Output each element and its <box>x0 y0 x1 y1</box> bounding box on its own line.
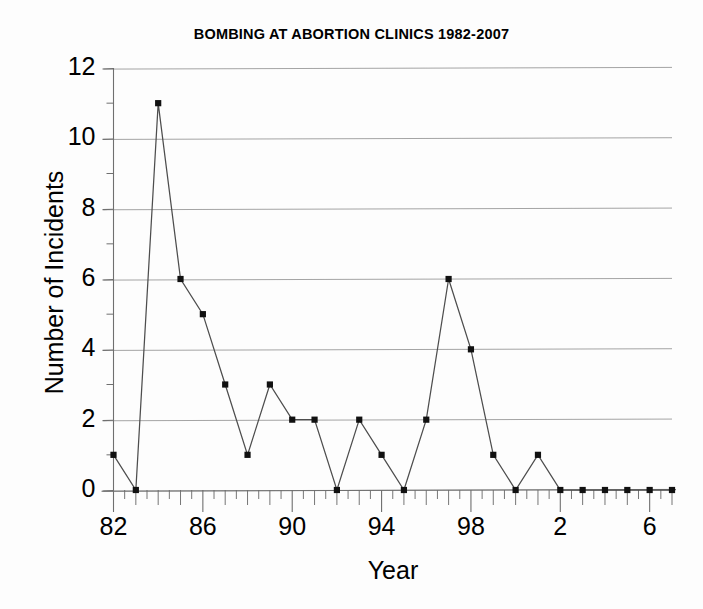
data-point-marker <box>423 417 429 423</box>
data-point-marker <box>490 452 496 458</box>
data-point-marker <box>647 487 653 493</box>
data-point-marker <box>401 487 407 493</box>
x-tick-label: 90 <box>262 512 322 541</box>
data-point-marker <box>602 487 608 493</box>
data-point-marker <box>155 100 161 106</box>
y-tick-label: 0 <box>40 474 96 503</box>
data-point-marker <box>133 487 139 493</box>
series-line <box>114 103 673 490</box>
data-point-marker <box>557 487 563 493</box>
data-point-marker <box>200 311 206 317</box>
grid-line <box>104 67 673 69</box>
data-point-marker <box>468 346 474 352</box>
data-point-marker <box>289 417 295 423</box>
grid-line <box>104 278 673 280</box>
y-tick-label: 6 <box>40 263 96 292</box>
y-tick-label: 8 <box>40 193 96 222</box>
data-point-marker <box>222 381 228 387</box>
data-point-marker <box>110 452 116 458</box>
data-point-marker <box>267 381 273 387</box>
data-point-marker <box>177 276 183 282</box>
data-point-marker <box>334 487 340 493</box>
chart-figure: BOMBING AT ABORTION CLINICS 1982-2007 Nu… <box>0 0 703 609</box>
y-tick-label: 4 <box>40 333 96 362</box>
y-tick-label: 2 <box>40 404 96 433</box>
x-tick-label: 94 <box>352 512 412 541</box>
data-point-marker <box>580 487 586 493</box>
x-tick-label: 82 <box>84 512 144 541</box>
x-tick-label: 86 <box>173 512 233 541</box>
data-point-marker <box>669 487 675 493</box>
data-point-marker <box>446 276 452 282</box>
x-axis-ticks <box>114 490 673 512</box>
data-point-marker <box>535 452 541 458</box>
data-point-markers <box>110 100 675 493</box>
data-point-marker <box>244 452 250 458</box>
data-point-marker <box>624 487 630 493</box>
x-tick-label: 2 <box>530 512 590 541</box>
x-tick-label: 6 <box>620 512 680 541</box>
data-line-series <box>114 103 673 490</box>
grid-line <box>104 208 673 210</box>
grid-line <box>104 138 673 140</box>
data-point-marker <box>513 487 519 493</box>
grid-line <box>104 419 673 421</box>
data-point-marker <box>356 417 362 423</box>
y-tick-label: 10 <box>40 122 96 151</box>
x-tick-label: 98 <box>441 512 501 541</box>
grid-line <box>104 349 673 351</box>
y-axis-ticks <box>103 69 114 491</box>
y-tick-label: 12 <box>40 52 96 81</box>
data-point-marker <box>311 417 317 423</box>
data-point-marker <box>378 452 384 458</box>
grid-lines <box>104 67 673 491</box>
